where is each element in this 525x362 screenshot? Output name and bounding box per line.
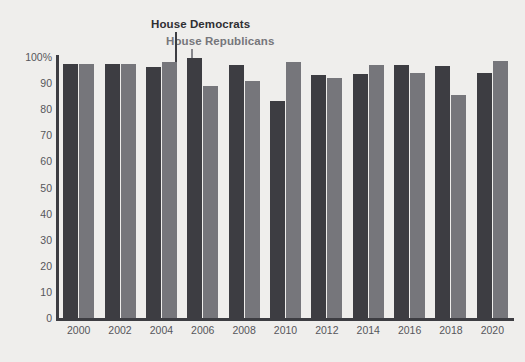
y-axis-tick-labels: 0102030405060708090100% (6, 57, 52, 318)
y-axis-tick-label: 10 (8, 286, 52, 298)
bar-house-democrats (270, 101, 285, 318)
x-axis-tick-label: 2006 (191, 324, 214, 336)
x-axis-tick-label: 2020 (481, 324, 504, 336)
legend-label-house-democrats: House Democrats (151, 18, 250, 30)
bar-house-republicans (369, 65, 384, 318)
bar-house-republicans (162, 62, 177, 318)
bar-group (389, 57, 430, 318)
bar-house-republicans (327, 78, 342, 318)
x-axis-tick-labels: 2000200220042006200820102012201420162018… (58, 324, 513, 342)
bar-group (141, 57, 182, 318)
bar-house-democrats (187, 58, 202, 318)
y-axis-tick-label: 100% (8, 51, 52, 63)
bar-house-democrats (311, 75, 326, 318)
legend-label-house-republicans: House Republicans (166, 35, 274, 47)
y-axis-tick-label: 30 (8, 234, 52, 246)
y-axis-tick-label: 20 (8, 260, 52, 272)
y-axis-tick-label: 80 (8, 103, 52, 115)
bar-house-democrats (353, 74, 368, 318)
bar-group (223, 57, 264, 318)
x-axis-tick-label: 2008 (232, 324, 255, 336)
x-axis-line (56, 318, 514, 321)
bar-house-democrats (477, 73, 492, 318)
bar-house-republicans (410, 73, 425, 318)
x-axis-tick-label: 2016 (398, 324, 421, 336)
y-axis-tick-label: 60 (8, 155, 52, 167)
bar-group (58, 57, 99, 318)
bar-house-republicans (451, 95, 466, 318)
bar-house-democrats (394, 65, 409, 318)
x-axis-tick-label: 2002 (108, 324, 131, 336)
bar-house-republicans (286, 62, 301, 318)
x-axis-tick-label: 2004 (150, 324, 173, 336)
bar-group (265, 57, 306, 318)
bar-house-democrats (146, 67, 161, 318)
bar-house-republicans (203, 86, 218, 318)
bar-group (348, 57, 389, 318)
bar-group (182, 57, 223, 318)
y-axis-tick-label: 70 (8, 129, 52, 141)
bar-house-republicans (245, 81, 260, 319)
x-axis-tick-label: 2018 (439, 324, 462, 336)
bar-group (430, 57, 471, 318)
y-axis-tick-label: 50 (8, 182, 52, 194)
y-axis-tick-label: 90 (8, 77, 52, 89)
y-axis-tick-label: 0 (8, 312, 52, 324)
x-axis-tick-label: 2014 (357, 324, 380, 336)
bar-house-democrats (105, 64, 120, 318)
bar-group (99, 57, 140, 318)
x-axis-tick-label: 2000 (67, 324, 90, 336)
bar-house-democrats (435, 66, 450, 318)
bar-house-republicans (493, 61, 508, 318)
x-axis-tick-label: 2012 (315, 324, 338, 336)
plot-area (58, 57, 513, 318)
bar-chart: House Democrats House Republicans 010203… (0, 0, 525, 362)
bar-house-democrats (63, 64, 78, 318)
x-axis-tick-label: 2010 (274, 324, 297, 336)
bar-group (306, 57, 347, 318)
y-axis-tick-label: 40 (8, 208, 52, 220)
bar-house-democrats (229, 65, 244, 318)
bar-house-republicans (79, 64, 94, 318)
bar-house-republicans (121, 64, 136, 318)
bar-group (472, 57, 513, 318)
